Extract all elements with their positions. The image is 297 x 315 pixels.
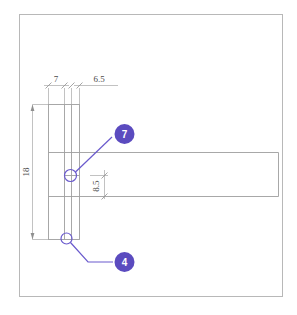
balloon-4[interactable]: 4 [115, 252, 135, 272]
cad-drawing-svg: 7 6.5 18 8.5 [0, 0, 297, 315]
left-dimension-group [33, 105, 49, 240]
leader-line-4 [71, 243, 114, 263]
balloon-7-label: 7 [122, 129, 128, 140]
top-dimension-group [44, 86, 118, 105]
dim-label-18: 18 [21, 167, 31, 177]
dim-label-6-5: 6.5 [93, 74, 105, 84]
balloon-7[interactable]: 7 [115, 124, 135, 144]
part-geometry [49, 105, 279, 240]
dim-label-8-5: 8.5 [91, 180, 101, 192]
horizontal-arm-outline [80, 153, 279, 197]
dim-label-7: 7 [54, 74, 59, 84]
sheet-border [20, 15, 283, 297]
technical-drawing-canvas: 7 6.5 18 8.5 [0, 0, 297, 315]
callout-leaders [61, 137, 113, 262]
leader-line-7 [76, 137, 113, 172]
balloon-4-label: 4 [122, 257, 128, 268]
lower-hole-highlight [61, 233, 72, 244]
